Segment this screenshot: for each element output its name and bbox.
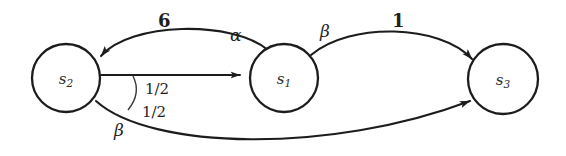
state-transition-diagram: s2 s1 s3 6 α β 1 1/2 1/2 β <box>0 0 566 156</box>
edge-label-action-beta-lower: β <box>114 122 124 139</box>
node-s3[interactable]: s3 <box>468 44 538 114</box>
edge-label-weight-s1-s3: 1 <box>392 12 405 30</box>
edge-label-action-alpha: α <box>230 27 241 44</box>
node-s2[interactable]: s2 <box>32 44 100 112</box>
probabilistic-branch-arc <box>128 76 136 110</box>
edge-s1-to-s2 <box>101 29 268 56</box>
edge-label-weight-s1-s2: 6 <box>158 12 171 30</box>
edge-label-prob-upper: 1/2 <box>145 82 169 97</box>
diagram-canvas: s2 s1 s3 <box>0 0 566 156</box>
edge-s1-to-s3 <box>311 31 472 59</box>
node-s1[interactable]: s1 <box>250 44 318 112</box>
edge-label-action-beta-upper: β <box>320 23 330 40</box>
edge-label-prob-lower: 1/2 <box>142 105 166 120</box>
